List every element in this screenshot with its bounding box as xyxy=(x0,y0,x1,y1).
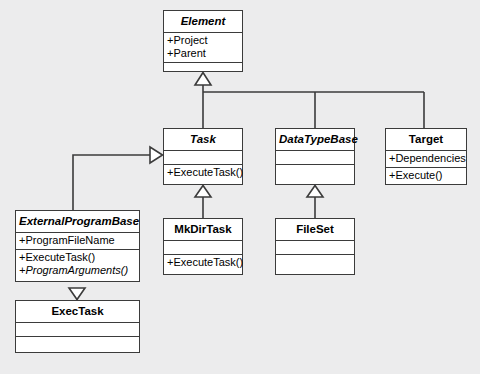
class-box-task[interactable]: Task +ExecuteTask() xyxy=(163,128,243,185)
uml-class-diagram: Element +Project +Parent Task +ExecuteTa… xyxy=(0,0,480,374)
class-operations-target: +Execute() xyxy=(386,167,466,184)
class-box-mkdirtask[interactable]: MkDirTask +ExecuteTask() xyxy=(163,218,243,275)
class-name-target: Target xyxy=(386,129,466,150)
class-member: +Execute() xyxy=(389,169,463,182)
generalization-arrow-task-left xyxy=(150,147,163,163)
class-name-mkdirtask: MkDirTask xyxy=(164,219,242,240)
class-member: +ExecuteTask() xyxy=(167,256,239,269)
class-box-exectask[interactable]: ExecTask xyxy=(15,300,140,353)
class-name-fileset: FileSet xyxy=(276,219,354,240)
class-name-element: Element xyxy=(164,11,242,32)
class-operations-element xyxy=(164,62,242,76)
class-member: +ProgramArguments() xyxy=(19,264,136,277)
class-box-element[interactable]: Element +Project +Parent xyxy=(163,10,243,72)
class-operations-exectask xyxy=(16,336,139,350)
class-name-externalprogrambase: ExternalProgramBase xyxy=(16,211,139,232)
class-member: +ExecuteTask() xyxy=(19,251,136,264)
generalization-arrow-datatypebase xyxy=(307,186,323,198)
class-box-target[interactable]: Target +Dependencies +Execute() xyxy=(385,128,467,185)
class-box-externalprogrambase[interactable]: ExternalProgramBase +ProgramFileName +Ex… xyxy=(15,210,140,282)
class-box-datatypebase[interactable]: DataTypeBase xyxy=(275,128,355,185)
class-member: +Parent xyxy=(167,47,239,60)
class-attributes-exectask xyxy=(16,322,139,336)
generalization-arrow-externalprogrambase xyxy=(69,288,85,300)
class-operations-mkdirtask: +ExecuteTask() xyxy=(164,254,242,271)
class-name-exectask: ExecTask xyxy=(16,301,139,322)
class-attributes-task xyxy=(164,150,242,164)
class-attributes-mkdirtask xyxy=(164,240,242,254)
class-box-fileset[interactable]: FileSet xyxy=(275,218,355,275)
class-operations-task: +ExecuteTask() xyxy=(164,164,242,181)
class-member: +Project xyxy=(167,34,239,47)
class-member: +ExecuteTask() xyxy=(167,166,239,179)
generalization-arrow-task xyxy=(195,186,211,198)
edge-externalprogrambase-to-task xyxy=(73,155,150,210)
class-attributes-element: +Project +Parent xyxy=(164,32,242,62)
class-member: +Dependencies xyxy=(389,152,463,165)
class-operations-externalprogrambase: +ExecuteTask() +ProgramArguments() xyxy=(16,249,139,279)
class-name-task: Task xyxy=(164,129,242,150)
class-attributes-externalprogrambase: +ProgramFileName xyxy=(16,232,139,249)
class-member: +ProgramFileName xyxy=(19,234,136,247)
class-attributes-fileset xyxy=(276,240,354,254)
class-name-datatypebase: DataTypeBase xyxy=(276,129,354,150)
class-attributes-datatypebase xyxy=(276,150,354,164)
class-operations-datatypebase xyxy=(276,164,354,178)
class-operations-fileset xyxy=(276,254,354,268)
class-attributes-target: +Dependencies xyxy=(386,150,466,167)
